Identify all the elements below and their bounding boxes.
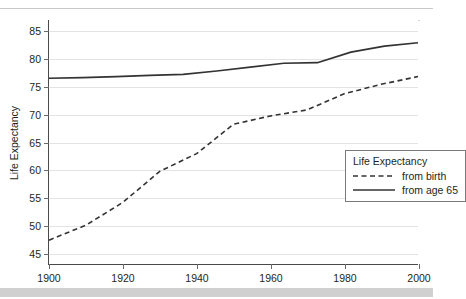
legend-title: Life Expectancy	[353, 155, 458, 167]
series-line-from-age-65	[49, 43, 418, 78]
legend-swatch-solid	[353, 185, 395, 195]
top-divider-rule	[0, 8, 433, 9]
x-axis-tick	[123, 264, 124, 269]
series-lines	[49, 20, 418, 264]
chart-legend: Life Expectancy from birth from age 65	[345, 150, 466, 202]
y-axis-tick-label: 50	[29, 220, 41, 232]
y-axis-tick-label: 75	[29, 81, 41, 93]
y-axis-tick-label: 60	[29, 164, 41, 176]
y-axis-tick-label: 80	[29, 53, 41, 65]
y-axis-tick-label: 45	[29, 248, 41, 260]
y-axis-title-text: Life Expectancy	[8, 105, 20, 179]
x-axis-tick	[419, 264, 420, 269]
x-axis-tick-label: 1980	[333, 272, 356, 284]
plot-area: 455055606570758085 190019201940196019802…	[48, 20, 418, 265]
legend-swatch-dashed	[353, 171, 395, 181]
x-axis-tick-label: 1940	[185, 272, 208, 284]
x-axis-tick	[271, 264, 272, 269]
legend-entry-from-birth: from birth	[353, 170, 458, 182]
x-axis-tick-label: 1900	[37, 272, 60, 284]
bottom-gray-bar	[0, 288, 433, 297]
y-axis-tick-label: 65	[29, 137, 41, 149]
page-top-whitespace	[0, 0, 433, 7]
legend-entry-from-age-65: from age 65	[353, 184, 458, 196]
legend-label-from-age-65: from age 65	[402, 184, 458, 196]
y-axis-tick-label: 85	[29, 25, 41, 37]
legend-label-from-birth: from birth	[402, 170, 446, 182]
y-axis-tick-label: 70	[29, 109, 41, 121]
x-axis-tick	[49, 264, 50, 269]
x-axis-tick	[345, 264, 346, 269]
x-axis-tick	[197, 264, 198, 269]
x-axis-tick-label: 1960	[259, 272, 282, 284]
y-axis-tick-label: 55	[29, 192, 41, 204]
x-axis-tick-label: 1920	[111, 272, 134, 284]
line-chart-figure: Life Expectancy 455055606570758085 19001…	[0, 10, 433, 282]
y-axis-title: Life Expectancy	[6, 20, 22, 265]
x-axis-tick-label: 2000	[407, 272, 430, 284]
